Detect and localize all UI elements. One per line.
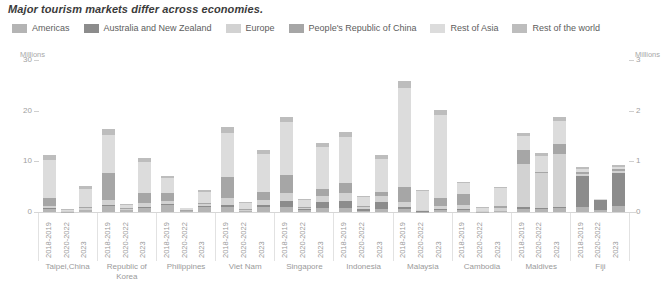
bar-segment [180,211,193,212]
bar-segment [102,206,115,212]
bar-stack[interactable] [434,110,447,212]
x-period-label: 2018-2019 [280,213,293,261]
x-period-label: 2020-2022 [357,213,370,261]
x-label-group: 2018-20192020-20222023 [216,213,275,261]
bar-segment [280,175,293,193]
bar-stack[interactable] [43,155,56,212]
x-period-label: 2023 [197,213,210,261]
bar-segment [398,209,411,212]
bar-stack[interactable] [576,167,589,212]
legend-label: Australia and New Zealand [104,24,212,33]
bar-segment [198,192,211,203]
bar-segment [298,210,311,212]
x-label-group: 2018-20192020-20222023 [453,213,512,261]
bar-segment [375,159,388,192]
x-period-label: 2018-2019 [221,213,234,261]
legend-swatch-icon [226,24,241,33]
bar-segment [553,144,566,154]
bar-stack[interactable] [398,81,411,212]
bar-stack[interactable] [198,190,211,212]
bar-group [334,60,393,212]
bar-group [571,60,630,212]
bar-stack[interactable] [79,186,92,212]
bar-stack[interactable] [161,176,174,212]
axis-tick-label: 3 [636,55,662,64]
legend-item[interactable]: Rest of Asia [430,24,498,33]
legend-item[interactable]: People's Republic of China [289,24,417,33]
bar-stack[interactable] [535,153,548,212]
bar-stack[interactable] [553,117,566,212]
x-period-label: 2023 [434,213,447,261]
x-group-label: Malaysia [393,262,452,292]
x-label-group: 2018-20192020-20222023 [394,213,453,261]
bar-segment [535,209,548,212]
x-period-label: 2023 [552,213,565,261]
bar-stack[interactable] [357,196,370,212]
bar-group [38,60,97,212]
bar-segment [398,88,411,187]
x-period-label: 2023 [316,213,329,261]
x-label-group: 2018-20192020-20222023 [275,213,334,261]
bar-stack[interactable] [612,165,625,212]
x-period-label: 2020-2022 [475,213,488,261]
bar-stack[interactable] [221,127,234,212]
bar-segment [298,200,311,207]
x-group-label: Indonesia [334,262,393,292]
legend-label: Americas [32,24,70,33]
bar-segment [339,137,352,183]
x-period-label: 2020-2022 [593,213,606,261]
x-period-label: 2018-2019 [339,213,352,261]
bar-segment [79,210,92,212]
legend-item[interactable]: Rest of the world [512,24,600,33]
bar-segment [517,209,530,212]
bar-segment [594,210,607,212]
bar-segment [339,201,352,208]
bar-stack[interactable] [594,199,607,212]
bar-segment [517,150,530,164]
bar-stack[interactable] [138,158,151,212]
legend-label: Rest of the world [532,24,600,33]
bar-segment [316,208,329,212]
bar-segment [221,198,234,205]
bar-stack[interactable] [316,143,329,212]
legend-swatch-icon [12,24,27,33]
bar-segment [257,207,270,212]
bar-group [275,60,334,212]
bar-stack[interactable] [61,209,74,212]
x-group-label: Philippines [156,262,215,292]
legend-item[interactable]: Australia and New Zealand [84,24,212,33]
bar-stack[interactable] [280,117,293,212]
chart-root: Major tourism markets differ across econ… [0,0,668,293]
bar-stack[interactable] [257,150,270,212]
x-period-label: 2020-2022 [121,213,134,261]
bar-stack[interactable] [494,187,507,212]
bar-stack[interactable] [339,132,352,212]
bar-stack[interactable] [180,208,193,212]
legend-label: Europe [246,24,275,33]
x-group-label: Taipei,China [38,262,97,292]
bar-segment [339,193,352,201]
bar-stack[interactable] [298,199,311,212]
bar-segment [517,164,530,207]
axis-tick-label: 30 [6,55,32,64]
bar-segment [416,212,429,213]
legend-item[interactable]: Americas [12,24,70,33]
x-label-group: 2018-20192020-20222023 [334,213,393,261]
bar-stack[interactable] [517,133,530,212]
legend-item[interactable]: Europe [226,24,275,33]
bar-segment [280,193,293,201]
bar-segment [257,154,270,192]
bar-segment [138,162,151,193]
bar-stack[interactable] [102,129,115,212]
bar-stack[interactable] [239,202,252,212]
x-period-label: 2018-2019 [398,213,411,261]
bar-segment [576,176,589,207]
bar-stack[interactable] [457,182,470,212]
bar-stack[interactable] [120,204,133,212]
bar-stack[interactable] [476,207,489,212]
bar-stack[interactable] [416,190,429,212]
bar-stack[interactable] [375,155,388,212]
bar-segment [494,211,507,212]
legend-label: People's Republic of China [309,24,417,33]
bar-group [156,60,215,212]
